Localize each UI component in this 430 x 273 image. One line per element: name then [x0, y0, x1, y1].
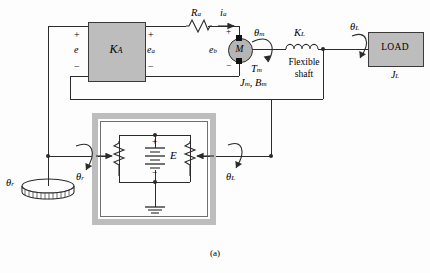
battery-minus-sign: −: [152, 169, 157, 179]
resistor-zigzag-icon: [186, 20, 212, 32]
reference-angle-label-arrow: θr: [76, 172, 84, 183]
motor-plus-sign: +: [226, 27, 231, 36]
motor-rotation-arrow-icon: [252, 39, 272, 62]
amplifier-output-plus: +: [148, 30, 154, 40]
back-emf-label: eb: [209, 45, 217, 55]
right-potentiometer-icon: [185, 141, 195, 176]
battery-cell-icon: [145, 148, 165, 168]
motor-minus-sign: −: [226, 61, 231, 70]
shaft-stiffness-label: KL: [294, 28, 305, 39]
left-potentiometer-icon: [114, 141, 124, 176]
inductor-coil-icon: [286, 44, 318, 49]
junction-dot-icon: [46, 47, 325, 184]
battery-plus-sign: +: [152, 138, 157, 148]
motor-parameters-label: Jm, Bm: [240, 78, 267, 89]
motor-torque-label: Tm: [251, 64, 262, 75]
armature-voltage-label: ea: [147, 45, 155, 55]
load-rotation-arrow-icon: [352, 34, 366, 58]
symbol-layer: [0, 0, 430, 273]
reference-angle-label-dial: θr: [6, 178, 14, 189]
motor-angle-label: θm: [254, 28, 264, 39]
armature-current-label: ia: [220, 8, 226, 19]
load-angle-label-top: θL: [350, 22, 359, 33]
flexible-shaft-label-line2: shaft: [281, 70, 327, 80]
amplifier-output-minus: −: [148, 62, 154, 72]
error-voltage-label: e: [74, 45, 78, 55]
armature-resistance-label: Ra: [191, 8, 201, 19]
flexible-shaft-label-line1: Flexible: [281, 58, 327, 68]
load-angle-label-bottom: θL: [226, 172, 235, 183]
figure-canvas: KA LOAD JL M: [0, 0, 430, 273]
reference-rotation-arrow-icon: [76, 144, 92, 170]
load-pot-rotation-arrow-icon: [228, 143, 242, 168]
supply-voltage-label: E: [170, 150, 177, 161]
amplifier-input-plus: +: [74, 30, 80, 40]
dial-knob-icon[interactable]: [22, 179, 74, 199]
amplifier-input-minus: −: [74, 62, 80, 72]
ground-icon: [145, 207, 165, 213]
figure-caption: (a): [0, 248, 430, 258]
